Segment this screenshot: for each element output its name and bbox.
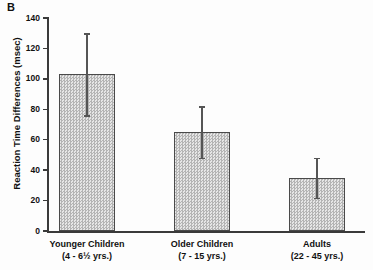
y-tick-label-20: 20 <box>10 195 40 205</box>
x-axis-line <box>47 231 365 233</box>
error-bar-line-1 <box>86 33 88 115</box>
y-tick-140 <box>43 17 47 18</box>
error-bar-cap-lower-2 <box>199 158 205 160</box>
error-bar-line-3 <box>316 158 318 198</box>
y-tick-label-100: 100 <box>10 73 40 83</box>
error-bar-cap-lower-3 <box>314 198 320 200</box>
y-tick-80 <box>43 109 47 110</box>
y-tick-label-60: 60 <box>10 134 40 144</box>
y-tick-label-40: 40 <box>10 165 40 175</box>
x-label-3: Adults(22 - 45 yrs.) <box>242 238 373 262</box>
y-tick-label-0: 0 <box>10 226 40 236</box>
error-bar-line-2 <box>201 106 203 158</box>
y-tick-60 <box>43 139 47 140</box>
y-tick-0 <box>43 230 47 231</box>
y-tick-label-120: 120 <box>10 43 40 53</box>
y-tick-20 <box>43 200 47 201</box>
error-bar-cap-lower-1 <box>84 115 90 117</box>
y-tick-120 <box>43 48 47 49</box>
x-label-line1-1: Younger Children <box>50 239 125 249</box>
y-tick-label-80: 80 <box>10 104 40 114</box>
x-label-line1-3: Adults <box>303 239 331 249</box>
plot-area: 020406080100120140 Younger Children(4 - … <box>0 0 373 270</box>
error-bar-cap-upper-2 <box>199 106 205 108</box>
figure-panel-b: B Reaction Time Differences (msec) 02040… <box>0 0 373 270</box>
y-tick-100 <box>43 78 47 79</box>
y-tick-40 <box>43 169 47 170</box>
error-bar-cap-upper-1 <box>84 33 90 35</box>
x-label-line1-2: Older Children <box>171 239 234 249</box>
x-label-line2-3: (22 - 45 yrs.) <box>242 250 373 262</box>
y-tick-label-140: 140 <box>10 13 40 23</box>
error-bar-cap-upper-3 <box>314 158 320 160</box>
y-axis-line <box>47 17 49 232</box>
